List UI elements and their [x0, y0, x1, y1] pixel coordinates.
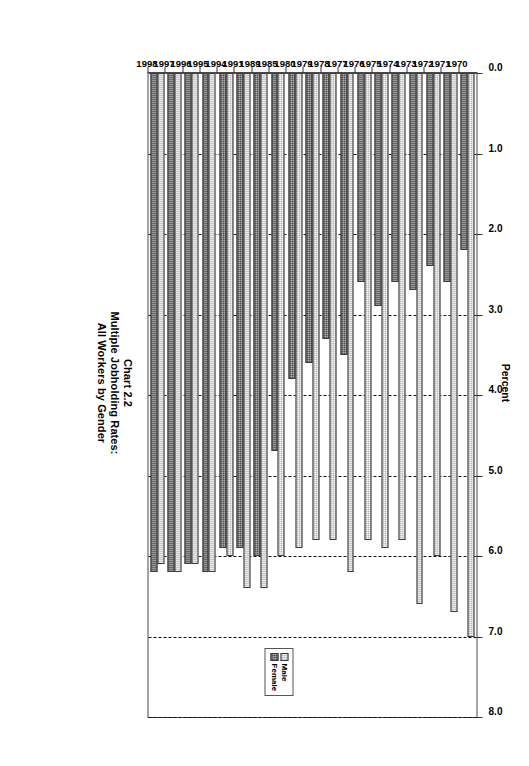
plot-area: 0.01.02.03.04.05.06.07.08.01970197119721… — [147, 72, 477, 718]
bar-female-1976 — [357, 73, 364, 282]
legend-label-male: Male — [279, 664, 288, 682]
x-tick-label-8.0: 8.0 — [488, 706, 502, 717]
bar-female-1970 — [460, 73, 467, 250]
bar-female-1998 — [150, 73, 157, 572]
bar-male-1989 — [260, 73, 267, 588]
x-tick-label-4.0: 4.0 — [488, 384, 502, 395]
bar-female-1994 — [219, 73, 226, 548]
bar-male-1994 — [226, 73, 233, 556]
x-tick-5.0 — [476, 476, 482, 477]
bar-female-1979 — [305, 73, 312, 363]
bar-male-1996 — [191, 73, 198, 564]
chart-subtitle-line-1: Multiple Jobholding Rates: — [107, 0, 120, 766]
bar-male-1998 — [157, 73, 164, 564]
legend-item-male: Male — [279, 653, 288, 692]
bar-female-1972 — [426, 73, 433, 266]
chart-figure: Percent 0.01.02.03.04.05.06.07.08.019701… — [0, 0, 529, 766]
rotated-figure-wrapper: Percent 0.01.02.03.04.05.06.07.08.019701… — [0, 0, 529, 766]
x-tick-label-1.0: 1.0 — [488, 143, 502, 154]
gridline-7.0 — [148, 637, 476, 638]
legend-item-female: Female — [269, 653, 278, 692]
x-tick-label-3.0: 3.0 — [488, 304, 502, 315]
bar-female-1971 — [443, 73, 450, 282]
x-tick-4.0 — [476, 395, 482, 396]
legend-swatch-male-icon — [280, 653, 288, 661]
bar-male-1978 — [329, 73, 336, 540]
bar-female-1991 — [236, 73, 243, 548]
bar-female-1995 — [202, 73, 209, 572]
bar-male-1976 — [364, 73, 371, 540]
chart-title-block: Chart 2.2 Multiple Jobholding Rates: All… — [94, 0, 133, 766]
bar-female-1997 — [167, 73, 174, 572]
x-tick-3.0 — [476, 315, 482, 316]
x-tick-label-2.0: 2.0 — [488, 223, 502, 234]
x-tick-label-7.0: 7.0 — [488, 626, 502, 637]
bar-male-1980 — [295, 73, 302, 548]
bar-male-1985 — [278, 73, 285, 556]
bar-female-1996 — [184, 73, 191, 564]
bar-female-1978 — [322, 73, 329, 339]
bar-male-1973 — [416, 73, 423, 604]
bar-female-1980 — [288, 73, 295, 379]
x-tick-2.0 — [476, 234, 482, 235]
bar-male-1971 — [450, 73, 457, 612]
bar-male-1997 — [174, 73, 181, 572]
gridline-8.0 — [148, 717, 476, 718]
x-tick-1.0 — [476, 154, 482, 155]
chart-title: Chart 2.2 — [120, 0, 133, 766]
bar-female-1985 — [271, 73, 278, 451]
legend-swatch-female-icon — [270, 653, 278, 661]
bar-female-1974 — [391, 73, 398, 282]
bar-female-1977 — [340, 73, 347, 355]
x-tick-label-5.0: 5.0 — [488, 465, 502, 476]
bar-male-1975 — [381, 73, 388, 548]
x-tick-7.0 — [476, 637, 482, 638]
bar-male-1972 — [433, 73, 440, 556]
bar-male-1977 — [347, 73, 354, 572]
bar-female-1973 — [409, 73, 416, 290]
x-tick-label-6.0: 6.0 — [488, 545, 502, 556]
bar-female-1989 — [253, 73, 260, 556]
bar-male-1995 — [208, 73, 215, 572]
bar-male-1991 — [243, 73, 250, 588]
bar-male-1974 — [398, 73, 405, 540]
chart-subtitle-line-2: All Workers by Gender — [94, 0, 107, 766]
chart-legend: Male Female — [264, 648, 293, 697]
y-axis-label-1998: 1998 — [136, 58, 157, 69]
x-tick-0.0 — [476, 73, 482, 74]
bar-female-1975 — [374, 73, 381, 306]
bar-male-1970 — [467, 73, 474, 637]
x-axis-title: Percent — [499, 0, 511, 766]
legend-label-female: Female — [269, 664, 278, 692]
x-tick-label-0.0: 0.0 — [488, 62, 502, 73]
x-tick-8.0 — [476, 717, 482, 718]
x-tick-6.0 — [476, 556, 482, 557]
bar-male-1979 — [312, 73, 319, 540]
